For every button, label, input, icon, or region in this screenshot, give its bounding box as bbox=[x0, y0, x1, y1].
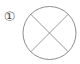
item-number-label: ① bbox=[4, 9, 16, 24]
figure-container: ① bbox=[0, 0, 80, 64]
circle-with-x-diagram: ① bbox=[0, 0, 80, 64]
